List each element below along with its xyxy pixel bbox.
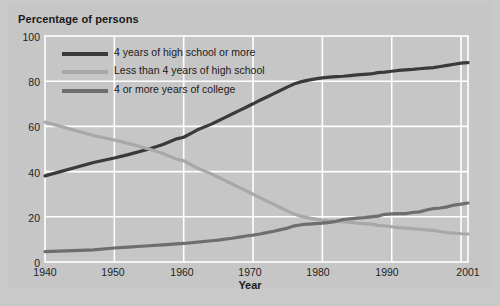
chart-figure: Percentage of persons 100 80 60 40 20 0 … [0, 0, 500, 306]
legend-label-college: 4 or more years of college [114, 83, 235, 95]
x-axis-label: Year [0, 279, 500, 291]
legend-swatch-highschool-or-more [62, 52, 108, 56]
legend-swatch-college [62, 89, 108, 93]
legend-label-less-than-highschool: Less than 4 years of high school [114, 64, 265, 76]
legend-label-highschool-or-more: 4 years of high school or more [114, 46, 255, 58]
legend-swatch-less-than-highschool [62, 70, 108, 74]
series-line-0 [45, 63, 468, 176]
series-lines [45, 63, 468, 252]
